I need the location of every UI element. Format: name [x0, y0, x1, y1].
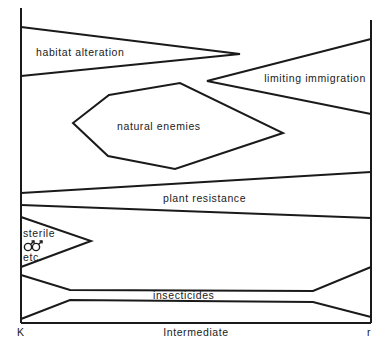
sterile-label: sterile: [23, 227, 55, 239]
insecticides-label: insecticides: [153, 289, 214, 301]
plant-resistance-bottom-edge: [21, 205, 371, 218]
pest-control-strategy-diagram: habitat alteration limiting immigration …: [0, 0, 392, 352]
etc-label: etc.: [23, 251, 42, 263]
limiting-immigration-label: limiting immigration: [264, 72, 366, 84]
axis-label-intermediate: Intermediate: [163, 326, 229, 338]
male-symbols-icon: [24, 241, 42, 251]
insecticides-bottom-edge: [21, 300, 371, 319]
axis-label-k: K: [17, 326, 25, 338]
plant-resistance-top-edge: [21, 172, 371, 193]
insecticides-top-edge: [21, 267, 371, 291]
plant-resistance-label: plant resistance: [163, 192, 246, 204]
natural-enemies-label: natural enemies: [117, 120, 201, 132]
habitat-alteration-label: habitat alteration: [36, 46, 124, 58]
axis-label-r: r: [367, 326, 371, 338]
